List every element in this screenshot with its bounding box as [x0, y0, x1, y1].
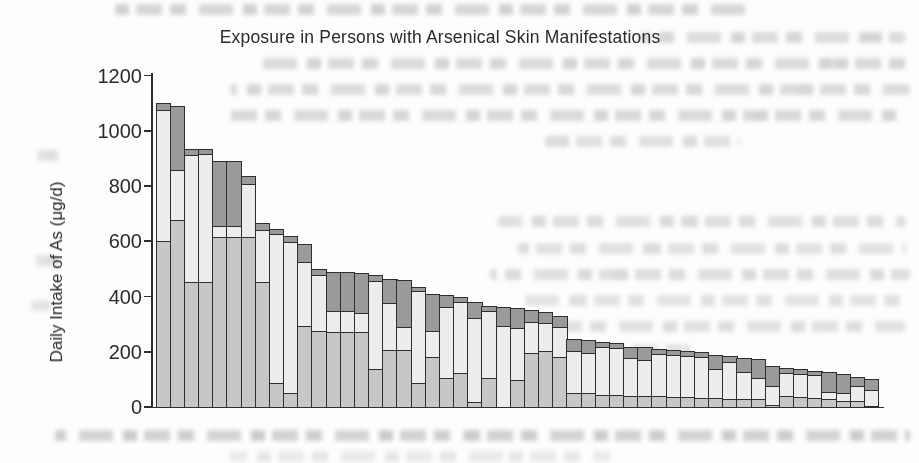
bar-segment-bottom: [482, 378, 495, 407]
bar-segment-top: [227, 162, 240, 226]
bar-segment-middle: [709, 369, 722, 398]
bar: [212, 161, 227, 408]
bar-segment-middle: [397, 327, 410, 350]
bar-segment-bottom: [766, 405, 779, 407]
bar: [198, 149, 213, 408]
bar-segment-top: [865, 380, 878, 390]
bar-segment-middle: [752, 378, 765, 399]
bar-segment-bottom: [709, 398, 722, 407]
chart-title: Exposure in Persons with Arsenical Skin …: [0, 27, 880, 48]
bar: [354, 273, 369, 408]
bar-segment-top: [242, 177, 255, 184]
bar-segment-middle: [482, 311, 495, 377]
background-text-smudge: [230, 84, 910, 95]
bar-segment-bottom: [737, 399, 750, 407]
bar-segment-middle: [426, 331, 439, 357]
bar-segment-middle: [256, 230, 269, 282]
bar: [156, 103, 171, 408]
bar: [736, 358, 751, 408]
bar: [595, 342, 610, 408]
y-tick-label: 800: [84, 175, 142, 197]
y-tick-label: 200: [84, 341, 142, 363]
bar-segment-top: [440, 296, 453, 307]
y-axis-label: Daily Intake of As (μg/d): [47, 182, 67, 363]
bar: [722, 356, 737, 408]
y-tick-label: 1200: [84, 65, 142, 87]
bar-segment-middle: [341, 311, 354, 332]
bar-segment-top: [525, 311, 538, 322]
bar: [566, 339, 581, 408]
background-text-smudge: [115, 4, 755, 15]
background-text-smudge: [55, 430, 910, 441]
bar-segment-middle: [270, 234, 283, 383]
bar-segment-middle: [355, 313, 368, 332]
bar-segment-bottom: [822, 399, 835, 407]
bar-segment-top: [851, 378, 864, 387]
bar-segment-middle: [383, 303, 396, 350]
bar: [850, 377, 865, 408]
bar-segment-bottom: [468, 402, 481, 407]
bar-segment-middle: [766, 386, 779, 405]
background-text-smudge: [518, 295, 906, 306]
bar-segment-top: [638, 348, 651, 359]
bar: [340, 272, 355, 408]
bar-segment-bottom: [256, 282, 269, 407]
bar-segment-middle: [369, 281, 382, 369]
bar-segment-bottom: [837, 401, 850, 407]
bar-segment-middle: [412, 291, 425, 384]
bar-segment-bottom: [525, 353, 538, 407]
bar: [184, 149, 199, 408]
y-tick-label: 400: [84, 286, 142, 308]
bar: [311, 269, 326, 408]
bar: [510, 308, 525, 408]
bar-segment-middle: [213, 226, 226, 237]
bar-segment-bottom: [681, 397, 694, 407]
bar: [751, 359, 766, 408]
y-tick-label: 0: [84, 396, 142, 418]
bar-segment-middle: [652, 354, 665, 397]
bar-segment-bottom: [553, 357, 566, 407]
bar-segment-bottom: [511, 380, 524, 407]
bar-segment-top: [511, 309, 524, 328]
bar-segment-middle: [865, 390, 878, 406]
bar-segment-top: [497, 308, 510, 327]
bar: [666, 350, 681, 408]
bar-segment-top: [737, 359, 750, 372]
bar-segment-bottom: [412, 383, 425, 407]
bar-segment-bottom: [780, 396, 793, 407]
bar-segment-top: [355, 274, 368, 313]
background-text-smudge: [545, 136, 740, 147]
bar-segment-middle: [497, 326, 510, 407]
bar-segment-middle: [553, 327, 566, 357]
bar-segment-middle: [468, 318, 481, 402]
background-text-smudge: [498, 216, 906, 227]
bar: [283, 236, 298, 408]
bar-segment-bottom: [567, 393, 580, 407]
bar-segment-middle: [327, 311, 340, 332]
bar-segment-middle: [780, 373, 793, 396]
bar: [170, 106, 185, 408]
bar-segment-middle: [539, 323, 552, 350]
bar: [368, 275, 383, 408]
bar-segment-middle: [567, 351, 580, 393]
bar-segment-bottom: [199, 282, 212, 407]
bar: [821, 372, 836, 408]
bar-segment-top: [766, 367, 779, 386]
bar: [439, 295, 454, 408]
bar-segment-middle: [242, 184, 255, 236]
bar-segment-top: [752, 360, 765, 377]
bar-segment-bottom: [369, 369, 382, 407]
bar: [864, 379, 879, 408]
bar-segment-bottom: [397, 350, 410, 407]
bar-segment-bottom: [624, 396, 637, 407]
bar-segment-bottom: [270, 383, 283, 407]
bar-segment-bottom: [582, 393, 595, 407]
bar-segment-middle: [171, 170, 184, 220]
bar-segment-middle: [638, 360, 651, 397]
bar: [255, 223, 270, 408]
bar-segment-middle: [157, 110, 170, 241]
bar-segment-middle: [298, 262, 311, 327]
bar-segment-middle: [199, 154, 212, 282]
bar-segment-top: [709, 356, 722, 370]
bar-segment-middle: [596, 347, 609, 395]
